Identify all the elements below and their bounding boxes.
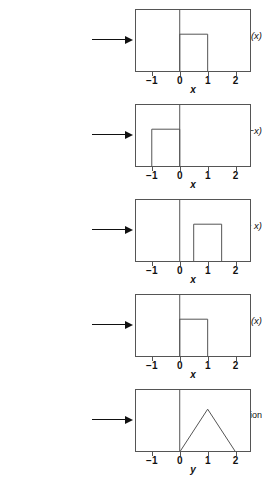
panel-f2-x: f2(x)−1012x bbox=[0, 0, 262, 95]
plot-canvas bbox=[135, 199, 251, 262]
arrow-right-icon bbox=[92, 225, 134, 234]
arrow-shaft bbox=[92, 134, 128, 135]
data-curve bbox=[180, 34, 208, 72]
arrow-shaft bbox=[92, 419, 128, 420]
arrow-shaft bbox=[92, 324, 128, 325]
label-argument: (x) bbox=[251, 315, 262, 326]
plot-canvas bbox=[135, 389, 251, 452]
panel-f2-x-plot bbox=[135, 9, 251, 72]
arrow-head bbox=[125, 416, 133, 424]
plot-canvas bbox=[135, 9, 251, 72]
arrow-head bbox=[125, 321, 133, 329]
arrow-right-icon bbox=[92, 320, 134, 329]
data-curve bbox=[180, 319, 208, 357]
plot-canvas bbox=[135, 104, 251, 167]
panel-f2-y-minus-x-axis-label: x bbox=[135, 274, 251, 285]
panel-f2-y-minus-x: f2(y − x)−1012x bbox=[0, 190, 262, 285]
panel-f1-x: f1(x)−1012x bbox=[0, 285, 262, 380]
arrow-right-icon bbox=[92, 415, 134, 424]
panel-f2-neg-x-axis-label: x bbox=[135, 179, 251, 190]
arrow-head bbox=[125, 131, 133, 139]
panel-f2-neg-x-plot bbox=[135, 104, 251, 167]
arrow-right-icon bbox=[92, 35, 134, 44]
panel-convolution: Convolution−1012y bbox=[0, 380, 262, 475]
arrow-shaft bbox=[92, 39, 128, 40]
panel-f2-y-minus-x-plot bbox=[135, 199, 251, 262]
data-curve bbox=[152, 129, 180, 167]
arrow-head bbox=[125, 226, 133, 234]
data-curve bbox=[180, 409, 236, 452]
label-argument: (x) bbox=[251, 30, 262, 41]
arrow-right-icon bbox=[92, 130, 134, 139]
data-curve bbox=[194, 224, 222, 262]
panel-convolution-axis-label: y bbox=[135, 464, 251, 475]
panel-convolution-plot bbox=[135, 389, 251, 452]
arrow-head bbox=[125, 36, 133, 44]
panel-f1-x-plot bbox=[135, 294, 251, 357]
arrow-shaft bbox=[92, 229, 128, 230]
plot-canvas bbox=[135, 294, 251, 357]
panel-f1-x-axis-label: x bbox=[135, 369, 251, 380]
panel-f2-x-axis-label: x bbox=[135, 84, 251, 95]
panel-f2-neg-x: f2(−x)−1012x bbox=[0, 95, 262, 190]
